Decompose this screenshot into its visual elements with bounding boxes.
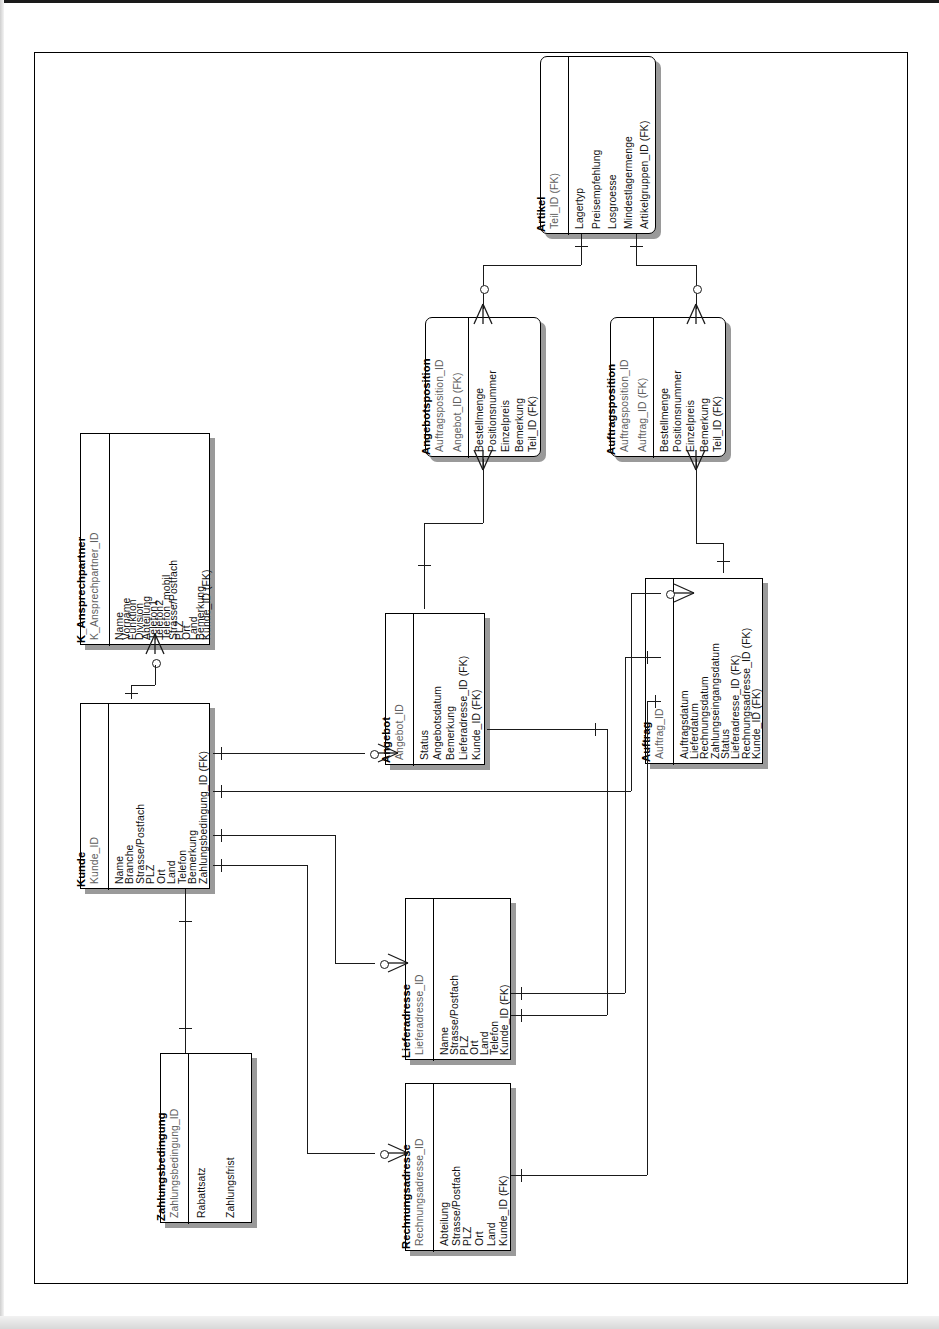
cardinality-one-tick [521,1169,522,1182]
entity-auftragsposition[interactable]: Auftragsposition_IDAuftrag_ID (FK)Bestel… [610,317,726,457]
entity-box[interactable]: Kunde_IDNameBrancheStrasse/PostfachPLZOr… [80,703,210,889]
cardinality-one-tick [125,693,138,694]
entity-lieferadresse[interactable]: Lieferadresse_IDNameStrasse/PostfachPLZO… [405,898,511,1060]
key-attr-divider [433,1084,434,1252]
rel-rechnungsadresse-auftrag [511,1175,647,1176]
attribute-field: Kunde_ID (FK) [472,689,482,760]
crow-kansprechpartner-bottom [144,634,166,656]
page-left-edge [0,0,4,1329]
er-diagram-canvas: Teil_ID (FK)LagertypPreisempfehlungLosgr… [35,53,907,1283]
attribute-field: Bemerkung [446,706,456,760]
rel-kunde-lieferadresse [335,963,375,964]
rel-lieferadresse-auftrag [625,657,626,993]
rel-kunde-kansprechpartner [131,685,132,699]
rel-artikel-auftragsposition [636,234,637,265]
key-field: Kunde_ID [90,837,100,884]
cardinality-one-tick [179,1028,192,1029]
rel-auftrag-auftragsposition [723,543,724,573]
attribute-field: Angebotsdatum [433,686,443,760]
entity-box[interactable]: Auftrag_IDAuftragsdatumLieferdatumRechnu… [645,578,763,764]
rel-kunde-rechnungsadresse [307,1153,375,1154]
rel-artikel-angebotsposition [581,234,582,265]
entity-box[interactable]: Angebot_IDStatusAngebotsdatumBemerkungLi… [385,613,485,765]
entity-box[interactable]: Auftragsposition_IDAuftrag_ID (FK)Bestel… [610,317,726,457]
entity-artikel[interactable]: Teil_ID (FK)LagertypPreisempfehlungLosgr… [540,56,656,234]
entity-title: Kunde [76,852,87,887]
rel-kunde-angebot [213,753,365,754]
attribute-field: PLZ [463,1227,473,1246]
key-field: Lieferadresse_ID [415,974,425,1055]
rel-kunde-auftrag [631,593,661,594]
attribute-field: Zahlungsbedingung_ID (FK) [199,751,209,884]
rel-lieferadresse-auftrag [625,657,661,658]
attribute-field: Preisempfehlung [592,150,602,229]
cardinality-one-tick [717,561,730,562]
cardinality-one-tick [221,747,222,760]
rel-angebot-angebotsposition [424,523,483,524]
rel-kunde-lieferadresse [213,835,335,836]
attribute-field: Kunde_ID (FK) [499,1175,509,1246]
key-attr-divider [109,434,110,646]
attribute-field: Bemerkung [700,398,710,452]
key-attr-divider [653,318,654,458]
entity-k_ansprechpartner[interactable]: K_Ansprechpartner_IDNameVornameFunktionD… [80,433,210,645]
entity-box[interactable]: Teil_ID (FK)LagertypPreisempfehlungLosgr… [540,56,656,234]
entity-rechnungsadresse[interactable]: Rechnungsadresse_IDAbteilungStrasse/Post… [405,1083,511,1251]
entity-zahlungsbedingung[interactable]: Zahlungsbedingung_IDRabattsatzZahlungsfr… [160,1053,252,1223]
cardinality-one-tick [595,723,596,736]
entity-box[interactable]: Zahlungsbedingung_IDRabattsatzZahlungsfr… [160,1053,252,1223]
rel-kunde-kansprechpartner [155,665,156,685]
page-bottom-edge [0,1316,939,1329]
entity-auftrag[interactable]: Auftrag_IDAuftragsdatumLieferdatumRechnu… [645,578,763,764]
entity-box[interactable]: K_Ansprechpartner_IDNameVornameFunktionD… [80,433,210,645]
attribute-field: Rabattsatz [197,1167,207,1218]
rel-kunde-kansprechpartner [131,685,155,686]
rel-kunde-rechnungsadresse [213,865,307,866]
attribute-field: Positionsnummer [673,370,683,452]
cardinality-one-tick [521,1009,522,1022]
cardinality-one-tick [221,829,222,842]
entity-angebot[interactable]: Angebot_IDStatusAngebotsdatumBemerkungLi… [385,613,485,765]
key-field: Zahlungsbedingung_ID [170,1109,180,1218]
key-field: Rechnungsadresse_ID [415,1138,425,1246]
attribute-field: Positionsnummer [488,370,498,452]
rel-auftrag-auftragsposition [696,459,697,543]
key-attr-divider [568,57,569,235]
attribute-field: Lieferadresse_ID (FK) [459,656,469,760]
crow-auftrag-left [672,582,694,604]
crow-angebot-left [376,742,398,764]
rel-artikel-angebotsposition [483,265,581,266]
entity-title: Lieferadresse [401,984,412,1058]
entity-angebotsposition[interactable]: Auftragsposition_IDAngebot_ID (FK)Bestel… [425,317,541,457]
key-attr-divider [468,318,469,458]
cardinality-one-tick [179,921,192,922]
rel-lieferadresse-angebot [487,729,607,730]
rel-lieferadresse-angebot [511,1015,607,1016]
attribute-field: Teil_ID (FK) [713,396,723,452]
entity-box[interactable]: Lieferadresse_IDNameStrasse/PostfachPLZO… [405,898,511,1060]
cardinality-one-tick [418,565,431,566]
attribute-field: Strasse/Postfach [452,1166,462,1246]
attribute-field: Kunde_ID (FK) [202,569,212,640]
attribute-field: Abteilung [440,1202,450,1246]
rel-artikel-auftragsposition [636,265,696,266]
rel-angebot-angebotsposition [483,459,484,523]
attribute-field: Kunde_ID (FK) [500,984,510,1055]
entity-box[interactable]: Auftragsposition_IDAngebot_ID (FK)Bestel… [425,317,541,457]
key-field: Auftragsposition_ID [620,359,630,452]
entity-kunde[interactable]: Kunde_IDNameBrancheStrasse/PostfachPLZOr… [80,703,210,889]
attribute-field: Einzelpreis [686,400,696,452]
key-attr-divider [108,704,109,890]
attribute-field: Status [420,730,430,760]
attribute-field: Bestellmenge [475,388,485,452]
attribute-field: Kunde_ID (FK) [752,688,762,759]
key-field: K_Ansprechpartner_ID [90,532,100,640]
crow-angebotsposition-top [472,304,494,326]
rel-rechnungsadresse-auftrag [647,701,661,702]
entity-box[interactable]: Rechnungsadresse_IDAbteilungStrasse/Post… [405,1083,511,1251]
crow-rechnungsadresse-left [386,1142,408,1164]
card-zero-artikel-angebotsposition [480,285,489,294]
cardinality-one-tick [221,785,222,798]
key-attr-divider [433,899,434,1061]
attribute-field: Mindestlagermenge [624,136,634,229]
